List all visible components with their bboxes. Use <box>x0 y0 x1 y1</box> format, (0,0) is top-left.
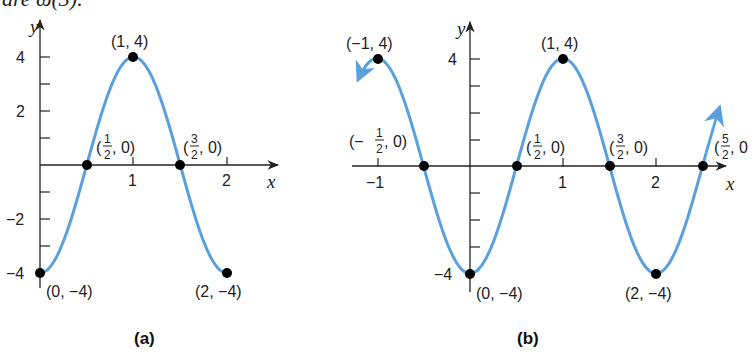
x-tick-neg1-b: −1 <box>366 174 384 191</box>
svg-text:(: ( <box>714 139 720 156</box>
y-axis-label-a: y <box>28 16 39 37</box>
figure: are ω(3). y x 4 2 −2 −4 1 2 <box>0 0 755 357</box>
x-tick-2-b: 2 <box>651 174 660 191</box>
svg-text:, 0): , 0) <box>199 139 222 156</box>
point-3half-0-b <box>605 161 615 171</box>
point-5half-0-b <box>698 161 708 171</box>
svg-text:(: ( <box>96 139 102 156</box>
point-0-neg4-b <box>465 269 475 279</box>
label-neg1-4-b: (−1, 4) <box>346 35 393 52</box>
point-1-4-a <box>128 52 138 62</box>
x-axis-label-b: x <box>725 173 735 194</box>
svg-text:, 0): , 0) <box>625 139 648 156</box>
y-tick-neg4-a: −4 <box>6 265 24 282</box>
label-3half-0-a: ( 3 2 , 0) <box>183 132 222 162</box>
point-2-neg4-b <box>651 269 661 279</box>
x-axis-label-a: x <box>266 171 276 192</box>
svg-text:2: 2 <box>617 148 624 162</box>
svg-text:, 0): , 0) <box>112 139 135 156</box>
svg-text:(: ( <box>609 139 615 156</box>
svg-text:2: 2 <box>534 148 541 162</box>
svg-text:(−: (− <box>349 133 364 150</box>
svg-text:3: 3 <box>617 132 624 146</box>
svg-text:1: 1 <box>104 132 111 146</box>
svg-text:3: 3 <box>191 132 198 146</box>
label-0-neg4-a: (0, −4) <box>46 283 93 300</box>
label-1-4-a: (1, 4) <box>111 33 148 50</box>
point-2-neg4-a <box>222 268 232 278</box>
y-ticks-a <box>40 57 50 246</box>
y-tick-2-a: 2 <box>16 103 25 120</box>
svg-text:(: ( <box>183 139 189 156</box>
y-tick-4-a: 4 <box>16 49 25 66</box>
point-half-0-a <box>82 160 92 170</box>
graph-a: y x 4 2 −2 −4 1 2 (1, 4) (0, −4) (2, −4)… <box>6 16 278 348</box>
y-tick-neg4-b: −4 <box>434 266 452 283</box>
point-0-neg4-a <box>35 268 45 278</box>
label-2-neg4-b: (2, −4) <box>625 285 672 302</box>
svg-text:2: 2 <box>376 142 383 156</box>
svg-text:5: 5 <box>722 132 729 146</box>
y-tick-neg2-a: −2 <box>6 211 24 228</box>
x-tick-1-a: 1 <box>128 172 137 189</box>
svg-text:, 0): , 0) <box>384 133 407 150</box>
x-tick-1-b: 1 <box>558 174 567 191</box>
svg-text:, 0): , 0) <box>542 139 565 156</box>
caption-b: (b) <box>517 329 539 348</box>
svg-text:2: 2 <box>722 148 729 162</box>
svg-text:2: 2 <box>191 148 198 162</box>
point-1-4-b <box>558 54 568 64</box>
caption-a: (a) <box>134 329 155 348</box>
y-tick-4-b: 4 <box>448 51 457 68</box>
label-half-0-a: ( 1 2 , 0) <box>96 132 135 162</box>
svg-text:2: 2 <box>104 148 111 162</box>
svg-text:1: 1 <box>376 126 383 140</box>
point-half-0-b <box>512 161 522 171</box>
label-neghalf-0-b: (− 1 2 , 0) <box>349 126 407 156</box>
svg-text:1: 1 <box>534 132 541 146</box>
point-3half-0-a <box>175 160 185 170</box>
y-ticks-b <box>470 59 480 247</box>
label-1-4-b: (1, 4) <box>541 35 578 52</box>
point-neg1-4-b <box>373 54 383 64</box>
label-3half-0-b: ( 3 2 , 0) <box>609 132 648 162</box>
label-0-neg4-b: (0, −4) <box>476 285 523 302</box>
svg-text:, 0: , 0 <box>730 139 748 156</box>
point-neghalf-0-b <box>419 161 429 171</box>
right-arrow-icon <box>703 108 720 166</box>
graph-b: y x 4 −4 −1 1 2 (−1, 4) (1, 4) (0, −4) (… <box>346 18 748 348</box>
header-fragment: are ω(3). <box>2 0 83 11</box>
x-tick-2-a: 2 <box>222 172 231 189</box>
label-2-neg4-a: (2, −4) <box>195 283 242 300</box>
label-half-0-b: ( 1 2 , 0) <box>526 132 565 162</box>
label-5half-0-b: ( 5 2 , 0 <box>714 132 748 162</box>
y-axis-label-b: y <box>455 18 466 39</box>
svg-text:(: ( <box>526 139 532 156</box>
